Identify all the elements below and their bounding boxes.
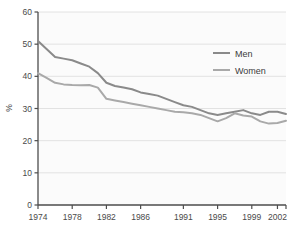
legend-label-women: Women: [235, 66, 266, 76]
y-tick-label: 50: [23, 39, 33, 49]
y-tick-label: 60: [23, 7, 33, 17]
y-tick-label: 20: [23, 136, 33, 146]
chart-canvas: 0102030405060 19741978198219861991199519…: [0, 0, 294, 237]
y-tick-label: 0: [27, 200, 32, 210]
x-tick-label: 1999: [242, 212, 261, 222]
y-tick-label: 30: [23, 104, 33, 114]
x-tick-label: 1991: [174, 212, 193, 222]
x-tick-label: 1982: [97, 212, 116, 222]
x-tick-label: 1978: [63, 212, 82, 222]
x-tick-label: 1995: [208, 212, 227, 222]
y-tick-label: 10: [23, 168, 33, 178]
x-tick-label: 1974: [29, 212, 48, 222]
legend-label-men: Men: [235, 49, 253, 59]
y-axis-title: %: [4, 104, 14, 112]
x-tick-label: 2002: [268, 212, 287, 222]
y-tick-label: 40: [23, 71, 33, 81]
x-tick-label: 1986: [131, 212, 150, 222]
line-chart: 0102030405060 19741978198219861991199519…: [0, 0, 294, 237]
